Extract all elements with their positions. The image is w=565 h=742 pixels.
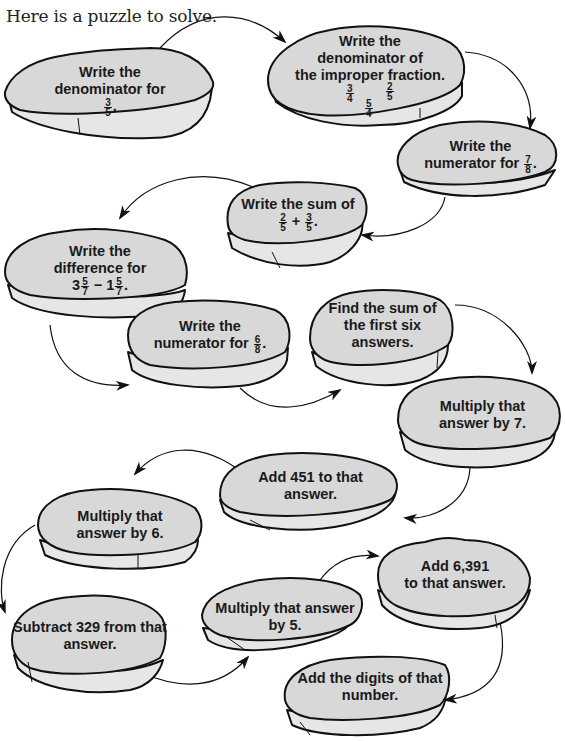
arrow-5-to-6	[50, 325, 128, 385]
stone-10-text: Multiply that answer by 6.	[45, 508, 195, 542]
arrow-10-to-11	[1, 525, 35, 612]
stone-7-text: Find the sum of the first six answers.	[315, 300, 450, 351]
fraction: 35	[104, 98, 112, 117]
stone-9-text: Add 451 to that answer.	[228, 469, 393, 503]
arrow-9-to-10	[135, 450, 243, 474]
stone-6-text: Write the numerator for 68.	[135, 318, 285, 354]
arrow-13-to-14	[445, 622, 503, 700]
arrow-1-to-2	[160, 17, 285, 48]
fraction: 78	[524, 155, 532, 174]
option-fraction-5-4: 54	[364, 99, 374, 118]
stone-12-text: Multiply that answer by 5.	[210, 600, 360, 634]
arrow-7-to-8	[455, 305, 532, 373]
stone-14-text: Add the digits of that number.	[290, 670, 450, 704]
stone-3-text: Write the numerator for 78.	[408, 138, 553, 174]
stone-5-text: Write the difference for 357 − 157.	[20, 243, 180, 296]
stone-1-text: Write the denominator for 35.	[30, 64, 190, 117]
arrow-12-to-13	[320, 555, 378, 580]
option-fraction-3-4: 34	[345, 84, 355, 103]
stone-8-text: Multiply that answer by 7.	[410, 398, 555, 432]
arrow-8-to-9	[405, 468, 470, 518]
arrow-3-to-4	[362, 197, 445, 236]
arrow-2-to-3	[465, 52, 531, 128]
stone-13-text: Add 6,391 to that answer.	[385, 558, 525, 592]
stone-11-text: Subtract 329 from that answer.	[10, 619, 170, 653]
stone-2-text: Write the denominator of the improper fr…	[275, 33, 465, 84]
stone-4-text: Write the sum of 25 + 35.	[228, 196, 368, 232]
option-fraction-2-5: 25	[385, 82, 395, 101]
arrow-6-to-7	[240, 388, 340, 407]
